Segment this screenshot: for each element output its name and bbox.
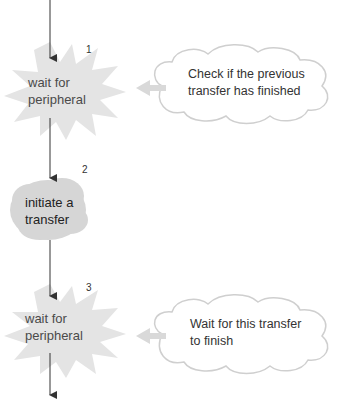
node-2-label-line2: transfer: [25, 211, 73, 228]
node-2-number: 2: [82, 164, 88, 175]
node-2-label-line1: initiate a: [25, 194, 73, 211]
node-3-label-line1: wait for: [25, 310, 83, 327]
note-2-line1: Wait for this transfer: [190, 316, 301, 333]
node-1-number: 1: [86, 44, 92, 55]
node-1-label-line1: wait for: [28, 74, 86, 91]
node-3-label-line2: peripheral: [25, 327, 83, 344]
note-1-text: Check if the previous transfer has finis…: [188, 66, 305, 100]
note-1-line2: transfer has finished: [188, 83, 305, 100]
node-2-label: initiate a transfer: [25, 194, 73, 228]
note-2-line2: to finish: [190, 333, 301, 350]
note-2-text: Wait for this transfer to finish: [190, 316, 301, 350]
node-1-label: wait for peripheral: [28, 74, 86, 108]
node-1-label-line2: peripheral: [28, 91, 86, 108]
node-3-label: wait for peripheral: [25, 310, 83, 344]
node-3-number: 3: [86, 282, 92, 293]
note-1-line1: Check if the previous: [188, 66, 305, 83]
